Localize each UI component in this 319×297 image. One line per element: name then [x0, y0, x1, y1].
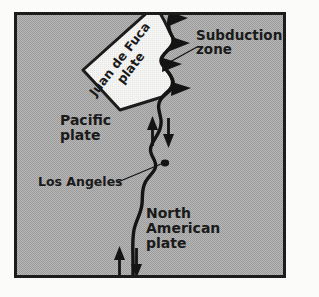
north-american-plate-label-line1: North — [146, 205, 191, 221]
north-american-plate-label-line3: plate — [146, 235, 186, 251]
north-american-plate-label-line2: American — [146, 220, 220, 236]
diagram-canvas: Juan de Fuca plate Subduction zone Pacif… — [0, 0, 319, 297]
tectonic-diagram: Juan de Fuca plate Subduction zone Pacif… — [0, 0, 319, 297]
pacific-plate-label-line2: plate — [60, 127, 100, 143]
pacific-plate-label-line1: Pacific — [60, 112, 111, 128]
subduction-zone-label-line2: zone — [196, 41, 232, 57]
los-angeles-label: Los Angeles — [38, 174, 123, 189]
los-angeles-city-marker — [161, 160, 169, 167]
